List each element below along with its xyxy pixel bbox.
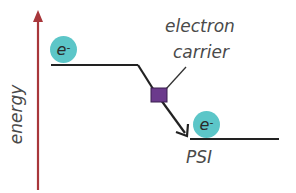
carrier-label-line2: carrier bbox=[173, 44, 229, 61]
psi-label: PSI bbox=[186, 149, 212, 166]
energy-axis-label: energy bbox=[8, 85, 25, 145]
electron-carrier-square bbox=[151, 88, 167, 102]
electron-transport-diagram: e- e- electron carrier PSI energy bbox=[0, 0, 296, 193]
electron-symbol: e bbox=[200, 115, 210, 134]
electron-charge: - bbox=[209, 116, 213, 129]
carrier-label-line1: electron bbox=[165, 18, 235, 35]
electron-charge: - bbox=[66, 41, 70, 54]
diagram-graphics bbox=[0, 0, 296, 193]
energy-axis-arrow bbox=[33, 10, 43, 190]
electron-psi: e- bbox=[193, 111, 220, 138]
electron-top: e- bbox=[50, 36, 77, 63]
transfer-arrow-lower bbox=[161, 100, 188, 136]
carrier-pointer-line bbox=[166, 67, 186, 89]
electron-symbol: e bbox=[57, 40, 67, 59]
